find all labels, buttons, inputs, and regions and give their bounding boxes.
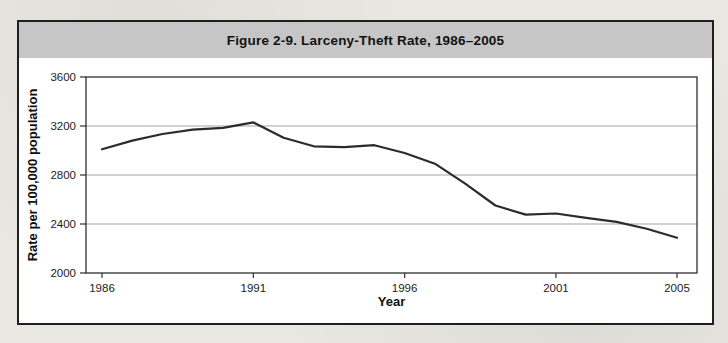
y-tick-label: 2800 (50, 169, 76, 181)
chart-area: Rate per 100,000 population 200024002800… (19, 58, 712, 323)
y-tick-label: 2400 (50, 218, 76, 230)
x-tick-label: 1991 (241, 282, 267, 294)
figure-title: Figure 2-9. Larceny-Theft Rate, 1986–200… (227, 33, 505, 48)
x-axis-title: Year (86, 294, 697, 309)
y-tick-label: 2000 (50, 267, 76, 279)
figure-title-bar: Figure 2-9. Larceny-Theft Rate, 1986–200… (19, 22, 712, 58)
data-line (102, 122, 677, 237)
page-background: Figure 2-9. Larceny-Theft Rate, 1986–200… (0, 0, 728, 343)
x-tick-label: 2001 (543, 282, 569, 294)
y-tick-label: 3200 (50, 120, 76, 132)
y-tick-label: 3600 (50, 71, 76, 83)
x-tick-label: 2005 (664, 282, 690, 294)
line-chart: 2000240028003200360019861991199620012005 (19, 58, 712, 298)
figure-frame: Figure 2-9. Larceny-Theft Rate, 1986–200… (17, 20, 714, 325)
x-tick-label: 1996 (392, 282, 418, 294)
x-tick-label: 1986 (89, 282, 115, 294)
